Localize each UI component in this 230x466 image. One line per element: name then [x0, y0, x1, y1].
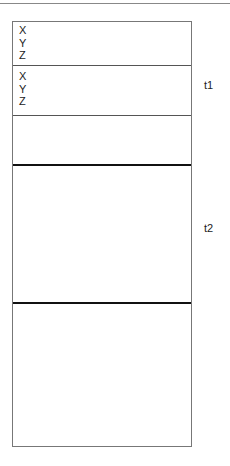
attribute: X — [19, 70, 26, 83]
top-rule — [0, 3, 230, 4]
section-divider — [13, 115, 191, 116]
attribute: Z — [19, 95, 26, 108]
label-t2: t2 — [204, 222, 213, 234]
attribute: Y — [19, 37, 26, 50]
section-2-attributes: X Y Z — [19, 70, 26, 108]
label-t1: t1 — [204, 79, 213, 91]
region-boundary — [13, 302, 191, 304]
section-1-attributes: X Y Z — [19, 24, 26, 62]
attribute: Z — [19, 49, 26, 62]
region-boundary — [13, 164, 191, 166]
stack-box: X Y Z X Y Z — [12, 21, 192, 447]
attribute: Y — [19, 83, 26, 96]
attribute: X — [19, 24, 26, 37]
section-divider — [13, 65, 191, 66]
